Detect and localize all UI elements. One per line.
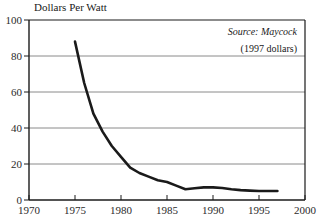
y-tick-label-80: 80 <box>11 50 23 62</box>
x-tick-label-1995: 1995 <box>248 204 271 216</box>
x-tick-label-1980: 1980 <box>110 204 133 216</box>
chart-container: Dollars Per Watt 100 80 6 <box>0 0 323 220</box>
y-tick-label-100: 100 <box>6 14 23 26</box>
x-tick-label-1975: 1975 <box>64 204 87 216</box>
y-tick-label-20: 20 <box>11 158 23 170</box>
y-tick-label-40: 40 <box>11 122 23 134</box>
chart-title: Dollars Per Watt <box>34 1 107 13</box>
dollar-basis-label: (1997 dollars) <box>241 43 297 55</box>
source-label: Source: Maycock <box>228 26 298 37</box>
x-tick-label-1990: 1990 <box>202 204 225 216</box>
x-tick-label-1985: 1985 <box>156 204 179 216</box>
x-tick-label-2000: 2000 <box>294 204 317 216</box>
line-chart: Dollars Per Watt 100 80 6 <box>0 0 323 220</box>
x-tick-label-1970: 1970 <box>18 204 41 216</box>
y-tick-label-60: 60 <box>11 86 23 98</box>
